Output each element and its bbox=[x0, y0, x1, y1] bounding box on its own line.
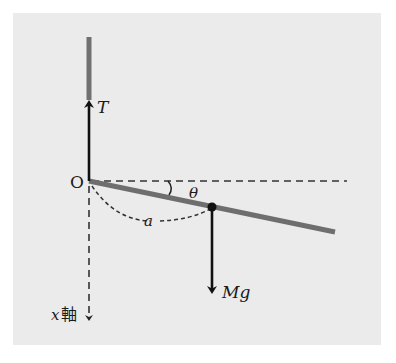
physics-diagram: O T θ a Mg x 軸 bbox=[0, 0, 396, 363]
origin-label: O bbox=[70, 172, 84, 192]
distance-label: a bbox=[144, 212, 153, 230]
axis-variable-label: x bbox=[51, 306, 60, 324]
angle-label: θ bbox=[189, 184, 198, 202]
weight-label: Mg bbox=[221, 282, 250, 302]
axis-suffix-label: 軸 bbox=[61, 305, 77, 324]
distance-arc-right bbox=[160, 209, 210, 221]
tension-label: T bbox=[97, 97, 110, 117]
center-of-mass-dot bbox=[208, 203, 217, 212]
angle-arc bbox=[168, 181, 171, 195]
